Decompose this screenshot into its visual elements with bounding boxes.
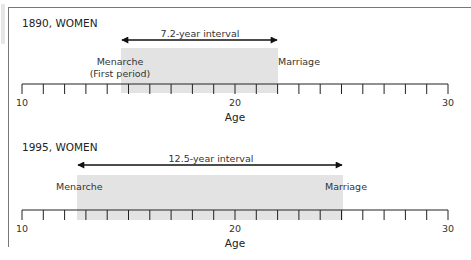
tick-label-20: 20 xyxy=(229,223,241,234)
panel-title-1995: 1995, WOMEN xyxy=(22,141,98,153)
tick-label-30: 30 xyxy=(442,223,454,234)
axis-ticks-1890 xyxy=(22,84,448,94)
axis-title-1995: Age xyxy=(225,237,245,249)
interval-shade-1995 xyxy=(77,175,343,220)
tick-label-30: 30 xyxy=(442,97,454,108)
menarche-sublabel-1890: (First period) xyxy=(90,68,151,79)
timeline-diagram: 1890, WOMEN 7.2-year interval Menarche (… xyxy=(0,0,471,260)
tick-label-20: 20 xyxy=(229,97,241,108)
tick-label-10: 10 xyxy=(16,223,28,234)
marriage-label-1890: Marriage xyxy=(278,56,320,67)
menarche-label-1995: Menarche xyxy=(56,181,103,192)
tick-label-10: 10 xyxy=(16,97,28,108)
panel-1890: 1890, WOMEN 7.2-year interval Menarche (… xyxy=(16,17,454,123)
interval-label-1995: 12.5-year interval xyxy=(169,153,254,164)
interval-label-1890: 7.2-year interval xyxy=(161,28,240,39)
panel-1995: 1995, WOMEN 12.5-year interval Menarche … xyxy=(16,141,454,249)
axis-title-1890: Age xyxy=(225,111,245,123)
menarche-label-1890: Menarche xyxy=(97,56,144,67)
panel-title-1890: 1890, WOMEN xyxy=(22,17,98,29)
marriage-label-1995: Marriage xyxy=(325,181,367,192)
axis-ticks-1995 xyxy=(22,210,448,220)
